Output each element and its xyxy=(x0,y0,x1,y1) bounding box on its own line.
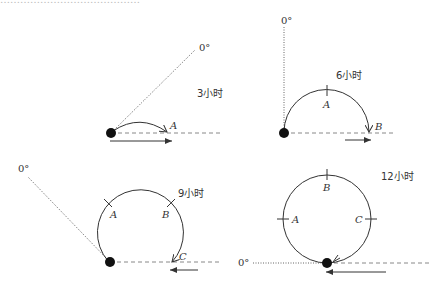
point-label-c: C xyxy=(355,214,363,225)
time-label: 9小时 xyxy=(178,188,204,199)
tick-a xyxy=(104,199,112,207)
zero-degree-reference-line xyxy=(111,50,195,133)
pivot-dot xyxy=(279,128,289,138)
time-label: 6小时 xyxy=(336,70,362,81)
point-label-a: A xyxy=(322,99,330,110)
pivot-dot xyxy=(322,258,332,268)
rotation-arc xyxy=(97,190,183,262)
zero-degree-label: 0° xyxy=(238,257,249,268)
point-label-b: B xyxy=(161,209,169,220)
point-label-a: A xyxy=(291,214,299,225)
time-label: 12小时 xyxy=(381,171,414,182)
panel-9-hours: 0° 9小时 A B C xyxy=(18,163,222,270)
zero-degree-label: 0° xyxy=(199,42,210,53)
point-label-a: A xyxy=(169,120,177,131)
pivot-dot xyxy=(105,257,115,267)
pivot-dot xyxy=(106,128,116,138)
zero-degree-label: 0° xyxy=(281,15,292,26)
zero-degree-label: 0° xyxy=(18,163,29,174)
panel-6-hours: 0° 6小时 A B xyxy=(279,15,394,140)
point-label-b: B xyxy=(374,121,382,132)
panel-12-hours: 0° 12小时 B A C xyxy=(238,169,432,272)
panel-3-hours: 0° 3小时 A xyxy=(106,42,223,141)
point-label-c: C xyxy=(179,251,187,262)
point-label-a: A xyxy=(109,209,117,220)
zero-degree-reference-line xyxy=(28,177,110,262)
rotation-arc xyxy=(113,122,167,132)
time-label: 3小时 xyxy=(197,88,223,99)
rotation-diagram: 0° 3小时 A 0° 6小时 A B 0° 9小时 A B C xyxy=(0,0,446,286)
point-label-b: B xyxy=(322,182,330,193)
